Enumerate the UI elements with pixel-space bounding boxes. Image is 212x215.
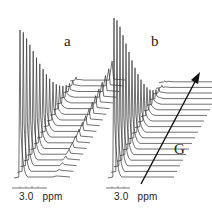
panel-a-label: a xyxy=(64,33,71,50)
panel-b-label: b xyxy=(151,33,159,50)
spectrum-trace xyxy=(147,90,212,105)
stacked-nmr-figure xyxy=(0,0,212,215)
gradient-arrow xyxy=(141,72,200,184)
axis-a-label: 3.0 ppm xyxy=(19,191,63,202)
axis-b-label: 3.0 ppm xyxy=(114,191,158,202)
spectrum-trace xyxy=(153,88,212,94)
spectrum-trace xyxy=(159,81,212,83)
gradient-label: G xyxy=(174,141,185,158)
panel-a-traces xyxy=(14,30,126,178)
axis-b xyxy=(106,186,130,188)
spectrum-trace xyxy=(156,85,212,88)
panel-b-traces xyxy=(108,18,212,178)
axis-a xyxy=(12,186,47,188)
